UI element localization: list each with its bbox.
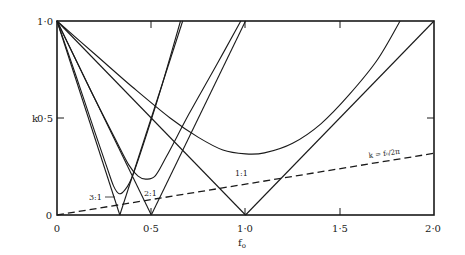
series-line [57, 21, 400, 154]
ytick-label: 0 [46, 210, 52, 221]
xtick-label: 1·5 [332, 223, 348, 234]
series-line [57, 21, 246, 215]
xtick-label: 0 [54, 223, 60, 234]
xtick-label: 2·0 [425, 223, 441, 234]
series-line [57, 153, 434, 215]
annotation-2-1: 2:1 [144, 189, 157, 198]
ytick-label: 0·5 [37, 113, 53, 124]
xtick-label: 0·5 [143, 223, 159, 234]
annotation-1-1: 1:1 [235, 169, 248, 178]
ytick-label: 1·0 [37, 16, 53, 27]
annotation-3-1: 3:1 [89, 193, 102, 202]
annotation-equation: k = f₀/2π [368, 148, 401, 160]
series-line [57, 21, 120, 215]
series-line [246, 21, 435, 215]
x-axis-label: fo [238, 237, 246, 250]
stability-chart: 1·0 k 0·5 0 0 0·5 1·0 1·5 2·0 fo 3:1 2:1… [0, 0, 465, 255]
series-layer [57, 21, 434, 215]
series-line [57, 21, 181, 194]
xtick-label: 1·0 [237, 223, 253, 234]
